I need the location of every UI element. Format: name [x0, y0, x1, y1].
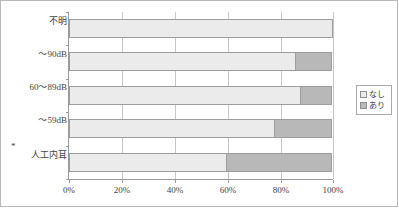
y-axis-label-3-text: ～59dB: [38, 115, 67, 125]
y-axis-label-1-text: ～90dB: [38, 49, 67, 59]
y-axis-label-4: * 人工内耳: [1, 142, 67, 160]
chart-legend: なし あり: [356, 85, 392, 115]
x-axis-label-0: 0%: [63, 185, 75, 195]
x-axis-tick-80: [281, 180, 282, 183]
bar-segment-ari: [226, 153, 332, 172]
bar-segment-ari: [295, 52, 332, 71]
bar-row-0: [69, 19, 333, 38]
y-axis-label-0: 不明: [1, 16, 67, 26]
x-axis-label-20: 20%: [114, 185, 131, 195]
legend-swatch-nashi-icon: [360, 91, 367, 98]
bar-segment-nashi: [69, 52, 296, 71]
y-axis-label-2-text: 60～89dB: [29, 82, 67, 92]
y-axis-label-2: 60～89dB: [1, 82, 67, 92]
legend-swatch-ari-icon: [360, 102, 367, 109]
x-axis-tick-60: [228, 180, 229, 183]
bar-segment-nashi: [69, 86, 301, 105]
y-axis-label-4-text: 人工内耳: [31, 150, 67, 160]
y-axis-category-labels: 不明 ～90dB 60～89dB ～59dB * 人工内耳: [1, 12, 67, 180]
legend-item-ari[interactable]: あり: [360, 100, 389, 111]
y-axis-tick-4: [66, 146, 69, 147]
y-axis-tick-3: [66, 112, 69, 113]
legend-item-nashi[interactable]: なし: [360, 89, 389, 100]
y-axis-label-3: ～59dB: [1, 115, 67, 125]
bar-row-2: [69, 86, 333, 105]
footnote-asterisk: *: [1, 142, 67, 150]
bar-segment-nashi: [69, 19, 333, 38]
x-axis-label-100: 100%: [323, 185, 344, 195]
y-axis-tick-0: [66, 12, 69, 13]
bar-segment-ari: [274, 119, 332, 138]
bar-row-4: [69, 153, 333, 172]
legend-label-nashi: なし: [369, 89, 385, 100]
y-axis-tick-1: [66, 45, 69, 46]
x-axis-label-60: 60%: [220, 185, 237, 195]
bar-row-1: [69, 52, 333, 71]
bar-row-3: [69, 119, 333, 138]
y-axis-label-0-text: 不明: [49, 16, 67, 26]
bar-segment-nashi: [69, 153, 227, 172]
x-axis-tick-100: [333, 180, 334, 183]
x-axis-tick-40: [175, 180, 176, 183]
legend-label-ari: あり: [369, 100, 385, 111]
bar-segment-nashi: [69, 119, 275, 138]
gridline-100: [333, 12, 334, 179]
x-axis-tick-20: [122, 180, 123, 183]
y-axis-tick-2: [66, 79, 69, 80]
chart-frame: 不明 ～90dB 60～89dB ～59dB * 人工内耳: [0, 0, 398, 207]
y-axis-label-1: ～90dB: [1, 49, 67, 59]
x-axis-label-80: 80%: [273, 185, 290, 195]
plot-area: 0% 20% 40% 60% 80% 100%: [68, 12, 333, 180]
x-axis-label-40: 40%: [167, 185, 184, 195]
bar-segment-ari: [300, 86, 332, 105]
x-axis-tick-0: [69, 180, 70, 183]
